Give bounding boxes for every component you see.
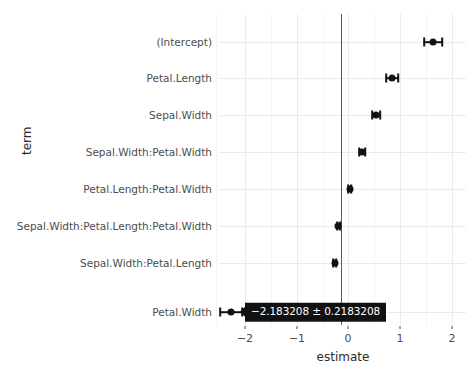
y-tick-label-sepal-width-petal-length-petal-width: Sepal.Width:Petal.Length:Petal.Width xyxy=(17,220,212,232)
x-axis-title: estimate xyxy=(220,350,466,364)
gridline-major-h xyxy=(220,115,466,116)
tooltip-arrow-icon xyxy=(240,307,245,317)
y-tick-label-intercept: (Intercept) xyxy=(156,36,212,48)
data-point-intercept[interactable] xyxy=(430,39,437,46)
x-tick-mark-2 xyxy=(452,326,453,329)
gridline-minor-v xyxy=(374,14,375,325)
x-tick-label-neg2: −2 xyxy=(237,332,253,345)
y-tick-label-sepal-width: Sepal.Width xyxy=(149,109,212,121)
y-tick-label-petal-width: Petal.Width xyxy=(152,306,212,318)
gridline-major-h xyxy=(220,189,466,190)
gridline-minor-v xyxy=(216,14,217,325)
gridline-major-v-neg1 xyxy=(297,14,298,325)
tooltip-text: −2.183208 ± 0.2183208 xyxy=(251,305,380,317)
gridline-minor-v xyxy=(271,14,272,325)
error-cap-low-petal-width xyxy=(219,308,221,317)
gridline-major-v-1 xyxy=(400,14,401,325)
gridline-major-h xyxy=(220,78,466,79)
coefficient-plot: (Intercept) Petal.Length Sepal.Width Sep… xyxy=(0,0,468,379)
y-tick-label-sepal-width-petal-length: Sepal.Width:Petal.Length xyxy=(80,257,212,269)
x-tick-mark-zero xyxy=(348,326,349,329)
x-tick-label-2: 2 xyxy=(449,332,456,345)
y-tick-label-petal-length-petal-width: Petal.Length:Petal.Width xyxy=(83,183,212,195)
gridline-major-v-neg2 xyxy=(245,14,246,325)
x-axis-tick-labels: −2 −1 0 1 2 xyxy=(220,332,466,348)
y-tick-label-sepal-width-petal-width: Sepal.Width:Petal.Width xyxy=(86,146,212,158)
x-tick-mark-neg1 xyxy=(297,326,298,329)
x-axis-tick-marks xyxy=(220,326,466,330)
y-tick-label-petal-length: Petal.Length xyxy=(147,72,212,84)
x-tick-label-1: 1 xyxy=(397,332,404,345)
gridline-major-v-zero xyxy=(348,14,349,325)
error-cap-high-intercept xyxy=(441,38,443,47)
y-axis-tick-labels: (Intercept) Petal.Length Sepal.Width Sep… xyxy=(0,14,212,325)
y-axis-title: term xyxy=(20,127,34,156)
gridline-minor-v xyxy=(323,14,324,325)
x-tick-label-neg1: −1 xyxy=(289,332,305,345)
error-cap-low-petal-length xyxy=(385,74,387,83)
data-point-sepal-width-petal-length-petal-width[interactable] xyxy=(335,223,342,230)
gridline-major-h xyxy=(220,226,466,227)
data-point-sepal-width-petal-width[interactable] xyxy=(359,149,366,156)
x-tick-label-zero: 0 xyxy=(345,332,352,345)
data-point-petal-length[interactable] xyxy=(389,75,396,82)
tooltip: −2.183208 ± 0.2183208 xyxy=(245,303,386,322)
gridline-minor-v xyxy=(426,14,427,325)
x-tick-mark-1 xyxy=(400,326,401,329)
data-point-petal-width[interactable] xyxy=(228,309,235,316)
error-cap-low-intercept xyxy=(423,38,425,47)
gridline-major-h xyxy=(220,152,466,153)
x-tick-mark-neg2 xyxy=(245,326,246,329)
data-point-petal-length-petal-width[interactable] xyxy=(347,186,354,193)
data-point-sepal-width-petal-length[interactable] xyxy=(332,260,339,267)
gridline-major-h xyxy=(220,263,466,264)
error-cap-high-petal-length xyxy=(397,74,399,83)
plot-panel: −2.183208 ± 0.2183208 xyxy=(220,14,466,325)
gridline-major-v-2 xyxy=(452,14,453,325)
zero-reference-line xyxy=(341,14,342,325)
data-point-sepal-width[interactable] xyxy=(373,112,380,119)
